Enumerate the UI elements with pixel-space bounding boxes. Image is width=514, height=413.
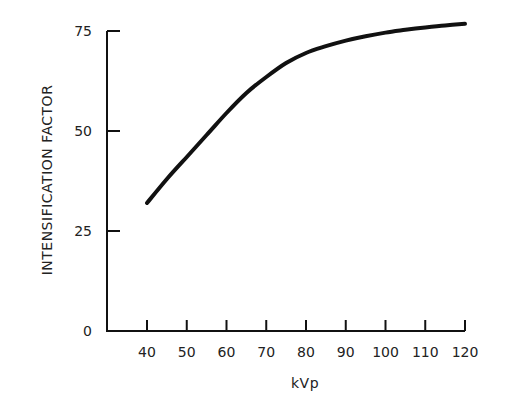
- x-tick-label: 70: [257, 344, 275, 360]
- y-tick-label: 50: [74, 123, 92, 139]
- x-tick-label: 40: [138, 344, 156, 360]
- intensification-chart: 405060708090100110120 0255075 kVp INTENS…: [0, 0, 514, 413]
- x-axis-ticks: 405060708090100110120: [138, 320, 478, 360]
- y-tick-label: 0: [83, 323, 92, 339]
- x-tick-label: 110: [412, 344, 439, 360]
- x-tick-label: 100: [372, 344, 399, 360]
- x-tick-label: 120: [452, 344, 479, 360]
- x-tick-label: 60: [218, 344, 236, 360]
- y-tick-label: 25: [74, 223, 92, 239]
- axis-lines: [107, 31, 465, 331]
- y-axis-ticks: 0255075: [74, 23, 120, 339]
- x-tick-label: 50: [178, 344, 196, 360]
- axes: [107, 31, 465, 331]
- y-tick-label: 75: [74, 23, 92, 39]
- x-tick-label: 90: [337, 344, 355, 360]
- x-tick-label: 80: [297, 344, 315, 360]
- x-axis-title: kVp: [291, 375, 319, 391]
- data-curve: [147, 24, 465, 203]
- y-axis-title: INTENSIFICATION FACTOR: [39, 85, 55, 276]
